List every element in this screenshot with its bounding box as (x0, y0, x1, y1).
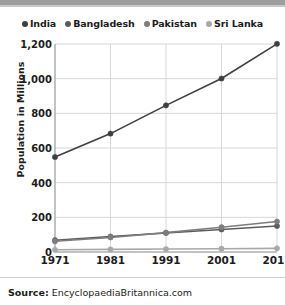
top-decorative-bar-shade (0, 5, 285, 7)
legend-marker-icon (144, 21, 150, 27)
legend-marker-icon (206, 21, 212, 27)
x-tick-label: 2011 (253, 254, 285, 266)
data-point-sri-lanka-1971[interactable] (52, 247, 57, 252)
data-point-pakistan-1991[interactable] (163, 230, 168, 235)
source-label: Source: (8, 287, 49, 298)
plot-area: Population in Millions 02004006008001,00… (0, 36, 285, 268)
data-point-pakistan-2011[interactable] (274, 219, 279, 224)
footer-divider (0, 277, 285, 278)
data-point-india-1991[interactable] (163, 103, 168, 108)
legend-item-bangladesh[interactable]: Bangladesh (65, 18, 135, 29)
data-point-pakistan-1971[interactable] (52, 239, 57, 244)
legend-marker-icon (65, 21, 71, 27)
legend-marker-icon (22, 21, 28, 27)
data-point-sri-lanka-2001[interactable] (219, 246, 224, 251)
plot-svg (0, 36, 285, 268)
x-tick-label: 1971 (31, 254, 79, 266)
data-point-india-2011[interactable] (274, 41, 279, 46)
legend-item-label: India (30, 18, 56, 29)
chart-legend: IndiaBangladeshPakistanSri Lanka (0, 18, 285, 29)
data-point-sri-lanka-1991[interactable] (163, 246, 168, 251)
data-point-sri-lanka-2011[interactable] (274, 246, 279, 251)
x-tick-label: 2001 (198, 254, 246, 266)
population-line-chart-card: IndiaBangladeshPakistanSri Lanka Populat… (0, 0, 285, 305)
x-tick-label: 1991 (142, 254, 190, 266)
source-attribution: Source: EncyclopaediaBritannica.com (8, 287, 192, 298)
data-point-india-1981[interactable] (108, 131, 113, 136)
legend-item-label: Sri Lanka (214, 18, 263, 29)
legend-item-pakistan[interactable]: Pakistan (144, 18, 197, 29)
legend-item-label: Bangladesh (73, 18, 135, 29)
data-point-india-2001[interactable] (219, 76, 224, 81)
source-text: EncyclopaediaBritannica.com (52, 287, 192, 298)
data-point-sri-lanka-1981[interactable] (108, 247, 113, 252)
legend-item-label: Pakistan (152, 18, 197, 29)
legend-item-sri-lanka[interactable]: Sri Lanka (206, 18, 263, 29)
gridlines (55, 44, 277, 252)
data-point-pakistan-2001[interactable] (219, 225, 224, 230)
x-tick-label: 1981 (87, 254, 135, 266)
data-point-india-1971[interactable] (52, 154, 57, 159)
data-point-pakistan-1981[interactable] (108, 235, 113, 240)
legend-item-india[interactable]: India (22, 18, 56, 29)
